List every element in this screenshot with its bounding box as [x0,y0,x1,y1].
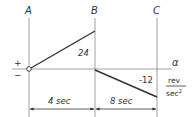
value-label-24: 24 [78,48,89,58]
origin-open-circle-icon [27,67,32,72]
minus-sign: − [14,70,22,80]
point-label-b: B [91,5,98,16]
alpha-symbol: α [172,57,179,68]
point-label-c: C [153,5,160,16]
dimension-label-bc: 8 sec [110,96,133,106]
unit-numerator: rev [168,76,181,85]
unit-denominator: sec2 [166,88,182,98]
unit-exponent: 2 [179,88,182,94]
point-label-a: A [24,5,32,16]
dimension-label-ab: 4 sec [48,96,71,106]
alpha-time-diagram: A B C + − 24 -12 α rev sec2 4 sec 8 sec [0,0,196,117]
value-label-neg12: -12 [139,75,153,85]
plus-sign: + [14,58,22,68]
